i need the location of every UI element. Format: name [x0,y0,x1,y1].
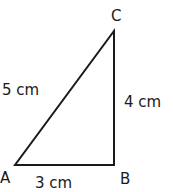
side-label-ab: 3 cm [35,176,72,191]
side-label-bc: 4 cm [124,95,161,110]
vertex-label-a: A [0,171,10,186]
side-label-ac: 5 cm [2,83,39,98]
vertex-label-b: B [120,172,130,187]
vertex-label-c: C [111,9,121,24]
